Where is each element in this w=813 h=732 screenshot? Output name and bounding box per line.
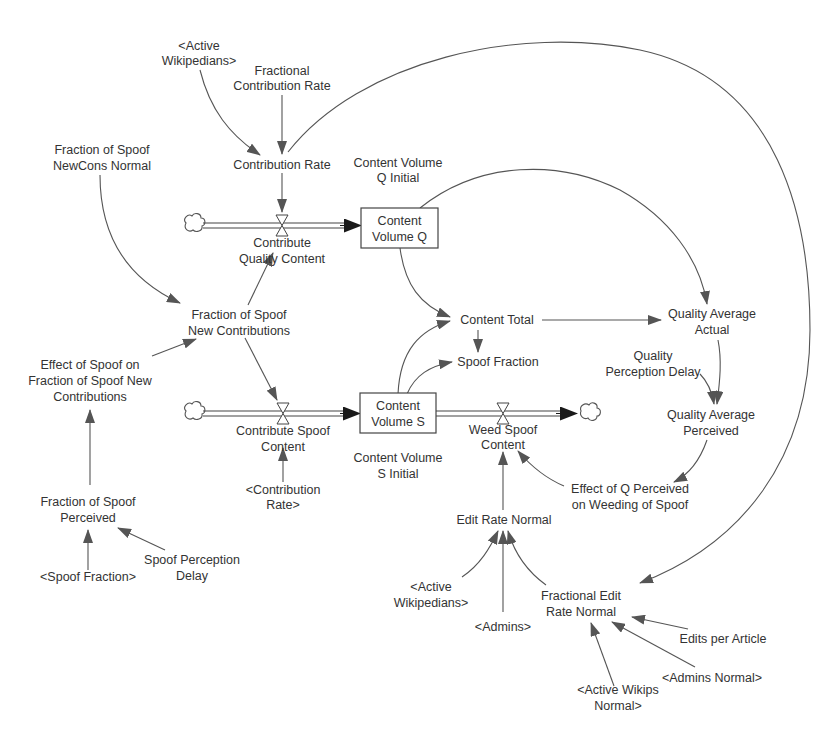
var-active-wikipedians-shadow-2[interactable]: <Active Wikipedians>: [394, 580, 469, 610]
svg-text:Contribute: Contribute: [253, 236, 311, 250]
link-active-wikipedians-ref-to-edit-rate-normal: [462, 531, 498, 577]
svg-text:<Contribution: <Contribution: [246, 483, 321, 497]
stock-label: Content: [378, 214, 422, 228]
var-fraction-of-spoof-new-contributions[interactable]: Fraction of Spoof New Contributions: [188, 308, 290, 338]
svg-text:<Active: <Active: [410, 580, 451, 594]
svg-text:Delay: Delay: [176, 569, 209, 583]
var-contribution-rate[interactable]: Contribution Rate: [233, 158, 330, 172]
svg-text:Quality Content: Quality Content: [239, 252, 326, 266]
link-epa-to-fern: [632, 617, 688, 629]
svg-text:Perceived: Perceived: [683, 424, 739, 438]
svg-text:Perception Delay: Perception Delay: [605, 365, 701, 379]
svg-text:Edits per Article: Edits per Article: [680, 632, 767, 646]
var-admins-shadow[interactable]: <Admins>: [475, 620, 531, 634]
link-fern-to-edit-rate-normal: [508, 531, 546, 585]
var-active-wikipedians-shadow[interactable]: <Active Wikipedians>: [162, 39, 237, 68]
svg-text:Contribute Spoof: Contribute Spoof: [236, 424, 330, 438]
link-fsnn-to-fraction-of-spoof-new-contributions: [100, 175, 180, 303]
link-qaa-to-qap: [717, 340, 720, 404]
svg-text:Content: Content: [378, 214, 422, 228]
var-content-volume-s-initial[interactable]: Content Volume S Initial: [354, 451, 443, 481]
svg-text:<Spoof Fraction>: <Spoof Fraction>: [40, 570, 136, 584]
link-qap-to-eqp: [674, 440, 707, 482]
link-qpd-to-qap: [700, 374, 714, 404]
svg-text:<Active Wikips: <Active Wikips: [577, 683, 659, 697]
svg-text:Quality Average: Quality Average: [668, 307, 756, 321]
svg-text:Weed Spoof: Weed Spoof: [469, 423, 538, 437]
var-active-wikips-normal-shadow[interactable]: <Active Wikips Normal>: [577, 683, 659, 713]
link-cvs-to-content-total: [398, 321, 450, 394]
flow-weed-spoof-content: [436, 403, 600, 424]
svg-text:Normal>: Normal>: [594, 699, 642, 713]
valve-icon: [277, 403, 289, 424]
var-fractional-edit-rate-normal[interactable]: Fractional Edit Rate Normal: [541, 589, 621, 619]
link-cvq-to-quality-average-actual: [420, 169, 707, 304]
var-spoof-perception-delay[interactable]: Spoof Perception Delay: [144, 553, 240, 583]
var-quality-average-actual[interactable]: Quality Average Actual: [668, 307, 756, 337]
var-spoof-fraction[interactable]: Spoof Fraction: [457, 355, 538, 369]
svg-text:Fractional Edit: Fractional Edit: [541, 589, 621, 603]
valve-icon: [497, 403, 509, 424]
var-quality-perception-delay[interactable]: Quality Perception Delay: [605, 349, 701, 379]
svg-text:Fraction of Spoof: Fraction of Spoof: [54, 143, 150, 157]
link-cvq-to-content-total: [400, 248, 450, 317]
flow-label-contribute-spoof-content[interactable]: Contribute Spoof Content: [236, 424, 330, 454]
link-spd-to-fsp: [118, 528, 165, 550]
svg-text:Perceived: Perceived: [60, 511, 116, 525]
stock-label: Volume S: [371, 415, 425, 429]
svg-text:Edit Rate Normal: Edit Rate Normal: [456, 513, 551, 527]
svg-text:Quality: Quality: [634, 349, 674, 363]
var-effect-of-spoof-on-fraction[interactable]: Effect of Spoof on Fraction of Spoof New…: [28, 358, 153, 404]
svg-text:<Admins>: <Admins>: [475, 620, 531, 634]
svg-text:Effect of Spoof on: Effect of Spoof on: [40, 358, 139, 372]
svg-text:Contribution Rate: Contribution Rate: [233, 158, 330, 172]
svg-text:NewCons Normal: NewCons Normal: [53, 159, 151, 173]
link-esf-to-fsnc: [152, 339, 196, 356]
source-cloud-icon: [185, 214, 205, 232]
valve-icon: [276, 215, 288, 236]
svg-text:Content Volume: Content Volume: [354, 451, 443, 465]
svg-text:Content Volume: Content Volume: [354, 156, 443, 170]
svg-text:on Weeding of Spoof: on Weeding of Spoof: [572, 498, 689, 512]
stock-content-volume-s[interactable]: Content Volume S: [360, 393, 436, 433]
svg-text:Rate Normal: Rate Normal: [546, 605, 616, 619]
var-effect-of-q-perceived-on-weeding[interactable]: Effect of Q Perceived on Weeding of Spoo…: [571, 482, 689, 512]
svg-text:Content: Content: [376, 399, 420, 413]
svg-text:Wikipedians>: Wikipedians>: [162, 54, 237, 68]
flow-contribute-spoof-content: [185, 402, 360, 424]
flow-label-weed-spoof-content[interactable]: Weed Spoof Content: [469, 423, 538, 452]
link-cvs-to-spoof-fraction: [407, 362, 452, 394]
svg-text:S Initial: S Initial: [378, 467, 419, 481]
link-active-wikips-normal-to-fern: [591, 623, 614, 686]
var-spoof-fraction-shadow[interactable]: <Spoof Fraction>: [40, 570, 136, 584]
var-edits-per-article[interactable]: Edits per Article: [680, 632, 767, 646]
svg-text:Volume Q: Volume Q: [372, 230, 427, 244]
svg-text:<Active: <Active: [178, 39, 219, 53]
svg-text:Effect of Q Perceived: Effect of Q Perceived: [571, 482, 689, 496]
svg-text:New Contributions: New Contributions: [188, 324, 290, 338]
link-eqp-to-weed-spoof-content: [518, 451, 564, 486]
svg-text:Fraction of Spoof: Fraction of Spoof: [40, 495, 136, 509]
flow-contribute-quality-content: [185, 214, 361, 236]
stock-content-volume-q[interactable]: Content Volume Q: [361, 208, 438, 248]
var-fraction-of-spoof-newcons-normal[interactable]: Fraction of Spoof NewCons Normal: [53, 143, 151, 173]
stock-flow-diagram: Content Volume Q Content Volume S Contri…: [0, 0, 813, 732]
var-quality-average-perceived[interactable]: Quality Average Perceived: [667, 408, 755, 438]
var-edit-rate-normal[interactable]: Edit Rate Normal: [456, 513, 551, 527]
flow-label-contribute-quality-content[interactable]: Contribute Quality Content: [239, 236, 326, 266]
source-cloud-icon: [185, 402, 205, 420]
var-admins-normal-shadow[interactable]: <Admins Normal>: [662, 671, 762, 685]
svg-text:Content: Content: [481, 438, 525, 452]
svg-text:Q Initial: Q Initial: [377, 171, 419, 185]
var-content-volume-q-initial[interactable]: Content Volume Q Initial: [354, 156, 443, 185]
svg-text:<Admins Normal>: <Admins Normal>: [662, 671, 762, 685]
stock-label: Volume Q: [372, 230, 427, 244]
sink-cloud-icon: [581, 403, 601, 421]
var-fraction-of-spoof-perceived[interactable]: Fraction of Spoof Perceived: [40, 495, 136, 525]
var-contribution-rate-shadow[interactable]: <Contribution Rate>: [246, 483, 321, 512]
stock-label: Content: [376, 399, 420, 413]
var-fractional-contribution-rate[interactable]: Fractional Contribution Rate: [233, 64, 330, 93]
svg-text:Rate>: Rate>: [266, 498, 300, 512]
svg-text:Fractional: Fractional: [255, 64, 310, 78]
var-content-total[interactable]: Content Total: [460, 313, 533, 327]
